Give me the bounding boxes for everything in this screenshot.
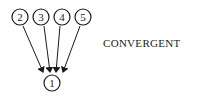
edge-2-to-1 [23, 26, 43, 72]
edge-5-to-1 [63, 26, 80, 72]
node-5-label: 5 [80, 11, 86, 23]
node-4-label: 4 [59, 11, 65, 23]
edge-4-to-1 [56, 26, 60, 72]
node-1: 1 [44, 75, 60, 91]
node-3: 3 [33, 9, 49, 25]
node-5: 5 [75, 9, 91, 25]
node-3-label: 3 [38, 11, 44, 23]
node-2-label: 2 [17, 11, 23, 23]
node-4: 4 [54, 9, 70, 25]
diagram-title: CONVERGENT [103, 37, 181, 49]
node-2: 2 [12, 9, 28, 25]
edges [23, 26, 80, 72]
convergent-diagram: 2 3 4 5 1 [0, 0, 201, 99]
node-1-label: 1 [49, 77, 55, 89]
edge-3-to-1 [44, 26, 50, 72]
